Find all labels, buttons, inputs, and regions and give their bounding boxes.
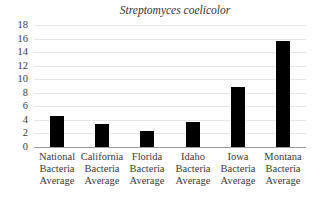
gridline — [34, 120, 306, 121]
gridline — [34, 25, 306, 26]
bar — [231, 87, 245, 147]
x-tick-label-line: Montana — [258, 151, 308, 163]
x-tick-label-line: Bacteria — [77, 163, 127, 175]
x-tick-label: IdahoBacteriaAverage — [168, 151, 218, 187]
y-tick-label: 6 — [4, 101, 28, 111]
bar — [140, 131, 154, 147]
x-tick-label: CaliforniaBacteriaAverage — [77, 151, 127, 187]
x-tick-label: FloridaBacteriaAverage — [122, 151, 172, 187]
bar — [186, 122, 200, 147]
x-tick-label-line: Bacteria — [213, 163, 263, 175]
x-tick-label-line: National — [32, 151, 82, 163]
x-tick-label-line: Idaho — [168, 151, 218, 163]
gridline — [34, 66, 306, 67]
x-tick-label-line: Average — [122, 175, 172, 187]
y-tick-label: 16 — [4, 34, 28, 44]
x-tick-label: IowaBacteriaAverage — [213, 151, 263, 187]
y-tick-label: 0 — [4, 142, 28, 152]
y-tick-label: 18 — [4, 20, 28, 30]
x-tick-label-line: Bacteria — [258, 163, 308, 175]
x-tick-label-line: Bacteria — [32, 163, 82, 175]
x-tick-label-line: Average — [77, 175, 127, 187]
bar — [276, 41, 290, 147]
x-tick-label-line: Average — [32, 175, 82, 187]
x-tick-label-line: California — [77, 151, 127, 163]
gridline — [34, 79, 306, 80]
gridline — [34, 39, 306, 40]
x-tick-label-line: Average — [168, 175, 218, 187]
y-tick-label: 8 — [4, 88, 28, 98]
x-tick-label-line: Average — [258, 175, 308, 187]
y-tick-label: 4 — [4, 115, 28, 125]
x-tick-label: MontanaBacteriaAverage — [258, 151, 308, 187]
y-tick-label: 10 — [4, 74, 28, 84]
y-tick-label: 2 — [4, 128, 28, 138]
x-tick-label-line: Iowa — [213, 151, 263, 163]
gridline — [34, 133, 306, 134]
x-tick-label-line: Bacteria — [168, 163, 218, 175]
x-tick-label: NationalBacteriaAverage — [32, 151, 82, 187]
x-axis-line — [34, 147, 306, 148]
y-tick-label: 14 — [4, 47, 28, 57]
gridline — [34, 93, 306, 94]
x-tick-label-line: Bacteria — [122, 163, 172, 175]
gridline — [34, 106, 306, 107]
gridline — [34, 52, 306, 53]
y-tick-label: 12 — [4, 61, 28, 71]
x-tick-label-line: Florida — [122, 151, 172, 163]
bar — [95, 124, 109, 147]
bar — [50, 116, 64, 147]
x-tick-label-line: Average — [213, 175, 263, 187]
bar-chart: 024681012141618NationalBacteriaAverageCa… — [0, 0, 320, 199]
